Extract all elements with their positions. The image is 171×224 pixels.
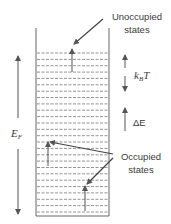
unoccupied-pointer [74,19,103,44]
unoccupied-label-line2: states [107,25,167,35]
occupied-pointer-1 [50,142,113,154]
unoccupied-label: Unoccupied states [107,12,167,35]
occupied-label: Occupied states [114,152,168,175]
fermi-label-sub: F [18,133,22,141]
occupied-label-line1: Occupied [114,152,168,162]
fermi-energy-label: EF [11,128,22,142]
energy-levels [37,53,108,212]
delta-e-label: ΔE [133,118,146,128]
unoccupied-label-line1: Unoccupied [107,12,167,22]
kbt-label: kBT [134,70,149,84]
fermi-label-e: E [11,127,18,139]
kbt-label-t: T [143,69,149,81]
occupied-label-line2: states [114,165,168,175]
